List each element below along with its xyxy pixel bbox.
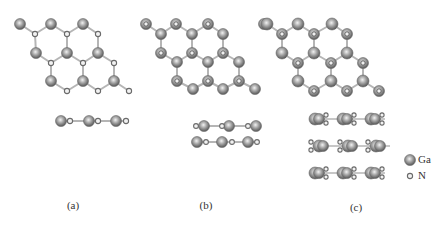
ga-atom	[62, 48, 73, 59]
n-atom	[255, 140, 260, 145]
n-atom	[95, 31, 100, 36]
ga-atom	[292, 75, 304, 87]
n-atom	[237, 79, 241, 83]
ga-atom	[199, 121, 210, 132]
ga-atom	[218, 29, 229, 40]
ga-atom	[111, 116, 122, 127]
n-atom	[352, 121, 356, 125]
ga-atom	[261, 18, 273, 30]
panel-label-b: (b)	[200, 199, 213, 211]
n-atom	[366, 140, 370, 144]
n-atom	[324, 121, 328, 125]
n-atom	[309, 148, 313, 152]
ga-atom	[172, 57, 183, 68]
n-atom	[329, 61, 333, 65]
n-atom	[312, 89, 316, 93]
n-atom	[352, 167, 356, 171]
n-atom	[324, 175, 328, 179]
ga-atom	[318, 141, 329, 152]
n-atom	[361, 61, 365, 65]
ga-atom	[224, 121, 235, 132]
n-atom	[67, 118, 72, 123]
n-atom	[380, 175, 384, 179]
ga-atom	[78, 19, 89, 30]
ga-atom	[347, 141, 358, 152]
ga-atom	[187, 29, 198, 40]
n-atom	[95, 118, 100, 123]
n-atom	[338, 140, 342, 144]
n-atom	[352, 113, 356, 117]
n-atom	[296, 61, 300, 65]
n-atom	[221, 51, 225, 55]
ga-atom	[234, 57, 245, 68]
n-atom	[345, 89, 349, 93]
ga-atom	[56, 116, 67, 127]
n-atom	[230, 140, 235, 145]
ga-atom	[370, 168, 381, 179]
n-atom	[159, 51, 163, 55]
n-atom	[95, 88, 100, 93]
n-atom	[194, 124, 199, 129]
ga-atom	[188, 84, 199, 95]
n-atom	[64, 31, 69, 36]
n-atom	[126, 88, 131, 93]
n-atom	[175, 79, 179, 83]
ga-atom	[46, 19, 57, 30]
ga-atom	[325, 75, 337, 87]
ga-atom	[109, 76, 120, 87]
ga-atom	[326, 18, 338, 30]
ga-atom	[370, 114, 381, 125]
ga-atom	[342, 168, 353, 179]
n-atom	[338, 148, 342, 152]
ga-atom	[276, 47, 288, 59]
n-atom	[246, 124, 251, 129]
n-atom	[48, 60, 53, 65]
ga-atom	[192, 137, 203, 148]
n-atom	[190, 51, 194, 55]
n-atom	[345, 32, 349, 36]
panel-label-c: (c)	[350, 201, 362, 213]
n-atom	[280, 32, 284, 36]
n-atom	[80, 60, 85, 65]
ga-atom	[357, 75, 369, 87]
ga-atom	[314, 168, 325, 179]
panel-label-a: (a)	[67, 199, 79, 211]
ga-atom	[203, 57, 214, 68]
ga-atom	[341, 47, 353, 59]
legend-label-n: N	[418, 169, 426, 181]
ga-atom	[93, 48, 104, 59]
ga-atom	[84, 116, 95, 127]
ga-atom	[243, 137, 254, 148]
gan-structure-figure: (a) (b) (c) Ga N	[0, 0, 445, 225]
n-atom	[312, 32, 316, 36]
ga-atom	[314, 114, 325, 125]
structure-diagram	[0, 0, 445, 225]
n-atom	[366, 148, 370, 152]
ga-atom	[217, 137, 228, 148]
n-atom	[144, 22, 148, 26]
n-atom	[123, 118, 128, 123]
ga-atom	[251, 121, 262, 132]
ga-atom	[308, 47, 320, 59]
legend-label-ga: Ga	[418, 153, 431, 165]
n-atom	[32, 31, 37, 36]
ga-atom	[31, 48, 42, 59]
atoms-layer	[15, 18, 416, 179]
n-atom	[380, 167, 384, 171]
n-atom	[380, 113, 384, 117]
n-atom	[377, 89, 381, 93]
n-atom	[206, 79, 210, 83]
n-atom	[407, 173, 412, 178]
ga-atom	[46, 76, 57, 87]
ga-atom	[15, 19, 26, 30]
ga-atom	[292, 18, 304, 30]
ga-atom	[375, 141, 386, 152]
n-atom	[220, 124, 225, 129]
ga-atom	[218, 84, 229, 95]
n-atom	[206, 22, 210, 26]
bonds-layer	[20, 24, 390, 173]
n-atom	[174, 22, 178, 26]
ga-atom	[250, 84, 261, 95]
ga-atom	[78, 76, 89, 87]
n-atom	[324, 113, 328, 117]
